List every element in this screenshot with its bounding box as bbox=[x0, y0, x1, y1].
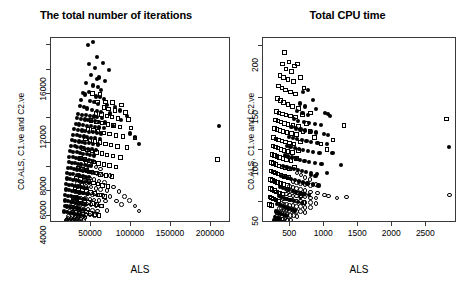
data-point-c1-ve bbox=[294, 132, 299, 137]
data-point-c0-als bbox=[330, 151, 334, 155]
data-point-c1-ve bbox=[298, 140, 303, 145]
data-point-c0-als bbox=[101, 61, 105, 65]
data-point-c0-als bbox=[319, 123, 323, 127]
data-point-c2-ve bbox=[308, 183, 313, 188]
data-point-c1-ve bbox=[102, 131, 107, 136]
data-point-c0-als bbox=[328, 114, 332, 118]
y-axis-tick-label: 100 bbox=[250, 149, 260, 189]
data-point-c2-ve bbox=[105, 188, 110, 193]
x-axis-tick bbox=[170, 222, 171, 226]
data-point-c0-als bbox=[306, 88, 310, 92]
data-point-c1-ve bbox=[125, 145, 130, 150]
data-point-c2-ve bbox=[103, 199, 108, 204]
data-point-c1-ve bbox=[289, 69, 294, 74]
data-point-c1-ve bbox=[298, 75, 303, 80]
data-point-c2-ve bbox=[303, 205, 308, 210]
data-point-c1-ve bbox=[86, 127, 91, 132]
data-point-c1-ve bbox=[129, 126, 134, 131]
data-point-c0-als bbox=[311, 150, 315, 154]
data-point-c1-ve bbox=[287, 60, 292, 65]
y-axis-tick-label: 200 bbox=[250, 45, 260, 85]
data-point-c1-ve bbox=[280, 62, 285, 67]
data-point-c0-als bbox=[95, 55, 99, 59]
data-point-c2-ve bbox=[95, 193, 100, 198]
x-axis-tick bbox=[425, 222, 426, 226]
data-point-c2-ve bbox=[127, 198, 132, 203]
data-point-c0-als bbox=[217, 124, 221, 128]
data-point-c2-ve bbox=[74, 219, 79, 222]
data-point-c2-ve bbox=[300, 192, 305, 197]
data-point-c1-ve bbox=[308, 129, 313, 134]
panel-cpu-time: Total CPU time C0.ALS, C1.ve and C2.ve A… bbox=[232, 0, 463, 283]
data-point-c2-ve bbox=[119, 202, 124, 207]
data-point-c2-ve bbox=[308, 205, 313, 210]
data-point-c1-ve bbox=[100, 151, 105, 156]
data-point-c1-ve bbox=[94, 120, 99, 125]
y-axis-tick-label: 12000 bbox=[38, 117, 48, 157]
data-point-c1-ve bbox=[312, 135, 317, 140]
data-point-c0-als bbox=[84, 81, 88, 85]
y-axis-tick-label: 8000 bbox=[38, 166, 48, 206]
data-point-c0-als bbox=[309, 140, 313, 144]
data-point-c1-ve bbox=[98, 140, 103, 145]
x-axis-tick-label: 200000 bbox=[185, 228, 235, 238]
data-point-c2-ve bbox=[105, 208, 110, 213]
x-axis-tick bbox=[357, 222, 358, 226]
data-point-c2-ve bbox=[95, 171, 100, 176]
panel-left-ylabel: C0.ALS, C1.ve and C2.ve bbox=[16, 93, 26, 190]
data-point-c1-ve bbox=[296, 148, 301, 153]
data-point-c1-ve bbox=[118, 155, 123, 160]
data-point-c0-als bbox=[314, 107, 318, 111]
data-point-c0-als bbox=[118, 108, 122, 112]
y-axis-tick bbox=[46, 44, 50, 45]
panel-left-title: The total number of iterations bbox=[0, 9, 232, 21]
data-point-c2-ve bbox=[117, 189, 122, 194]
data-point-c2-ve bbox=[447, 193, 452, 198]
data-point-c1-ve bbox=[325, 147, 330, 152]
data-point-c0-als bbox=[87, 62, 91, 66]
data-point-c1-ve bbox=[100, 121, 105, 126]
data-point-c2-ve bbox=[94, 203, 99, 208]
data-point-c2-ve bbox=[133, 204, 138, 209]
data-point-c1-ve bbox=[342, 123, 347, 128]
plot-area-iterations bbox=[50, 37, 230, 222]
data-point-c1-ve bbox=[97, 213, 102, 218]
data-point-c1-ve bbox=[304, 121, 309, 126]
data-point-c2-ve bbox=[87, 176, 92, 181]
data-point-c2-ve bbox=[308, 190, 313, 195]
data-point-c1-ve bbox=[295, 62, 300, 67]
data-point-c1-ve bbox=[215, 157, 220, 162]
x-axis-tick bbox=[90, 222, 91, 226]
data-point-c0-als bbox=[91, 40, 95, 44]
data-point-c2-ve bbox=[111, 185, 116, 190]
data-point-c1-ve bbox=[284, 67, 289, 72]
data-point-c0-als bbox=[339, 163, 343, 167]
data-point-c0-als bbox=[301, 148, 305, 152]
data-point-c1-ve bbox=[286, 175, 291, 180]
data-point-c1-ve bbox=[121, 134, 126, 139]
data-point-c1-ve bbox=[269, 203, 274, 208]
data-point-c0-als bbox=[296, 119, 300, 123]
data-point-c0-als bbox=[298, 101, 302, 105]
data-point-c1-ve bbox=[294, 156, 299, 161]
y-axis-tick-label: 50 bbox=[250, 201, 260, 241]
data-point-c2-ve bbox=[101, 193, 106, 198]
data-point-c0-als bbox=[85, 106, 89, 110]
data-point-c2-ve bbox=[344, 195, 349, 200]
data-point-c0-als bbox=[304, 139, 308, 143]
data-point-c0-als bbox=[313, 161, 317, 165]
data-point-c1-ve bbox=[90, 91, 95, 96]
x-axis-tick-label: 2500 bbox=[400, 228, 450, 238]
data-point-c1-ve bbox=[107, 132, 112, 137]
panel-left-xlabel: ALS bbox=[50, 264, 230, 275]
x-axis-tick bbox=[210, 222, 211, 226]
data-point-c0-als bbox=[325, 142, 329, 146]
data-point-c0-als bbox=[79, 98, 83, 102]
data-point-c2-ve bbox=[92, 213, 97, 218]
data-point-c2-ve bbox=[97, 198, 102, 203]
data-point-c0-als bbox=[314, 130, 318, 134]
data-point-c2-ve bbox=[303, 210, 308, 215]
x-axis-tick bbox=[391, 222, 392, 226]
data-point-c0-als bbox=[95, 77, 99, 81]
data-point-c2-ve bbox=[303, 175, 308, 180]
